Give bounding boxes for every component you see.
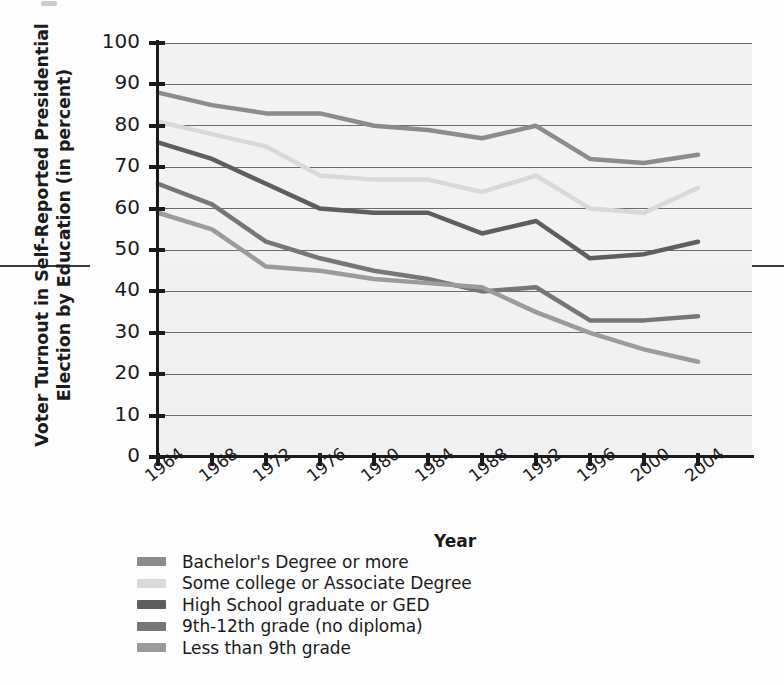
y-axis-title: Voter Turnout in Self-Reported President… xyxy=(30,23,75,447)
y-tick-mark-100 xyxy=(149,41,165,45)
y-tick-label-80: 80 xyxy=(92,112,140,136)
legend-label-4: Less than 9th grade xyxy=(182,638,351,658)
legend-item-1[interactable]: Some college or Associate Degree xyxy=(137,573,557,595)
y-tick-label-70: 70 xyxy=(92,153,140,177)
series-lines xyxy=(158,43,752,457)
legend-label-0: Bachelor's Degree or more xyxy=(182,552,409,572)
legend-item-4[interactable]: Less than 9th grade xyxy=(137,637,557,659)
y-axis-tick-labels: 1009080706050403020100 xyxy=(92,0,140,470)
series-line-3 xyxy=(158,184,698,321)
legend-item-0[interactable]: Bachelor's Degree or more xyxy=(137,551,557,573)
y-tick-label-90: 90 xyxy=(92,70,140,94)
legend-swatch-icon-0 xyxy=(137,557,166,566)
legend-swatch-icon-3 xyxy=(137,622,166,631)
y-tick-mark-40 xyxy=(149,289,165,293)
y-tick-mark-60 xyxy=(149,207,165,211)
plot-area xyxy=(158,43,752,457)
y-tick-mark-90 xyxy=(149,82,165,86)
legend-swatch-icon-1 xyxy=(137,579,166,588)
y-tick-mark-50 xyxy=(149,248,165,252)
y-tick-mark-80 xyxy=(149,124,165,128)
x-axis-title: Year xyxy=(158,531,752,551)
legend-swatch-icon-2 xyxy=(137,600,166,609)
y-tick-label-0: 0 xyxy=(92,443,140,467)
legend-label-2: High School graduate or GED xyxy=(182,595,429,615)
chart-legend: Bachelor's Degree or moreSome college or… xyxy=(137,551,557,659)
y-tick-label-100: 100 xyxy=(92,29,140,53)
y-tick-label-20: 20 xyxy=(92,360,140,384)
series-line-0 xyxy=(158,93,698,163)
y-tick-mark-10 xyxy=(149,414,165,418)
legend-label-3: 9th-12th grade (no diploma) xyxy=(182,616,423,636)
legend-label-1: Some college or Associate Degree xyxy=(182,573,472,593)
y-tick-mark-20 xyxy=(149,372,165,376)
y-axis-title-wrapper: Voter Turnout in Self-Reported President… xyxy=(0,0,105,470)
y-tick-mark-70 xyxy=(149,165,165,169)
y-tick-label-60: 60 xyxy=(92,195,140,219)
series-line-1 xyxy=(158,122,698,213)
legend-item-3[interactable]: 9th-12th grade (no diploma) xyxy=(137,616,557,638)
legend-item-2[interactable]: High School graduate or GED xyxy=(137,594,557,616)
y-tick-label-10: 10 xyxy=(92,402,140,426)
chart-page: Voter Turnout in Self-Reported President… xyxy=(0,0,784,685)
y-tick-label-30: 30 xyxy=(92,319,140,343)
legend-swatch-icon-4 xyxy=(137,643,166,652)
y-axis-title-line1: Voter Turnout in Self-Reported President… xyxy=(31,23,51,447)
series-line-4 xyxy=(158,213,698,362)
y-tick-label-50: 50 xyxy=(92,236,140,260)
y-tick-label-40: 40 xyxy=(92,277,140,301)
y-tick-mark-30 xyxy=(149,331,165,335)
y-axis-title-line2: Election by Education (in percent) xyxy=(53,23,75,447)
